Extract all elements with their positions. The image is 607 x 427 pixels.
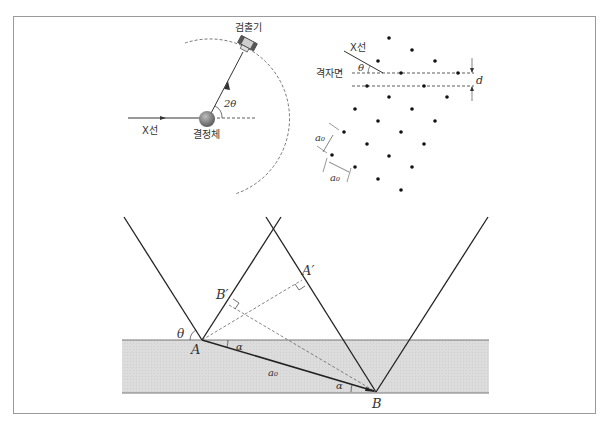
a0-tick xyxy=(347,168,351,182)
a0-label: a₀ xyxy=(268,367,278,378)
incident-ray-A xyxy=(124,217,202,340)
a0-label-2: a₀ xyxy=(330,172,340,183)
theta-label: θ xyxy=(177,327,185,341)
point-A-label: A xyxy=(190,342,200,357)
lattice-atoms xyxy=(330,36,460,192)
crystal-label: 결정체 xyxy=(193,129,220,140)
arrow-icon xyxy=(160,116,166,120)
right-angle-mark-Aprime xyxy=(295,284,305,290)
diffractometer-figure: 검출기 X선 결정체 2θ xyxy=(128,22,290,194)
xray-label: X선 xyxy=(350,42,366,53)
point-B-label: B xyxy=(371,396,382,411)
theta-label: θ xyxy=(358,62,364,73)
arrow-icon xyxy=(470,86,474,91)
a0-tick xyxy=(329,123,339,130)
crystal-surface-band xyxy=(122,340,489,393)
a0-tick xyxy=(323,158,327,172)
point-Aprime-label: A′ xyxy=(301,263,314,278)
lattice-plane-label: 격자면 xyxy=(316,67,343,79)
crystal-icon xyxy=(199,111,215,127)
two-theta-label: 2θ xyxy=(223,98,236,109)
a0-tick xyxy=(317,146,327,153)
path-difference-figure: θ A B B′ A′ α α a₀ xyxy=(122,217,489,411)
d-label: d xyxy=(476,74,483,87)
theta-arc xyxy=(368,66,370,73)
a0-label-1: a₀ xyxy=(315,132,325,143)
two-theta-arc xyxy=(215,106,222,118)
alpha-label-B: α xyxy=(336,380,343,391)
a0-dimension-line-2 xyxy=(329,162,349,172)
alpha-label-A: α xyxy=(236,341,243,352)
reflected-ray-A xyxy=(202,217,281,340)
diagram-canvas: 검출기 X선 결정체 2θ d xyxy=(0,0,607,427)
lattice-figure: d xyxy=(315,36,483,192)
point-Bprime-label: B′ xyxy=(215,287,229,302)
arrow-icon xyxy=(470,68,474,73)
detector-icon xyxy=(236,35,258,54)
detector-label: 검출기 xyxy=(235,22,262,33)
xray-label: X선 xyxy=(142,125,158,136)
theta-arc xyxy=(190,330,196,340)
